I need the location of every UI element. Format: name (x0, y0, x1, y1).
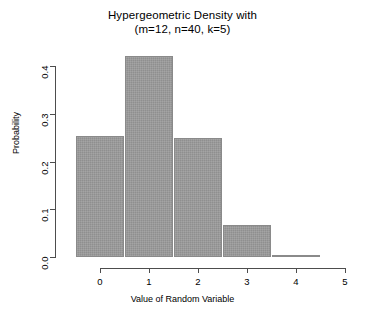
y-axis-title: Probability (11, 103, 21, 163)
x-axis-line (100, 268, 345, 269)
y-axis-tick (50, 257, 55, 258)
x-axis-tick (345, 268, 346, 273)
y-axis-tick-label: 0.4 (39, 66, 50, 110)
y-axis-tick-label: 0.2 (39, 161, 50, 205)
bar (76, 136, 124, 257)
bar (174, 138, 222, 257)
x-axis-tick-label: 3 (232, 276, 262, 287)
bar (272, 255, 320, 257)
hypergeometric-density-chart: Hypergeometric Density with (m=12, n=40,… (0, 0, 365, 319)
x-axis-tick (100, 268, 101, 273)
y-axis-tick-label: 0.1 (39, 209, 50, 253)
x-axis-tick-label: 2 (183, 276, 213, 287)
x-axis-tick-label: 1 (134, 276, 164, 287)
y-axis-tick (50, 162, 55, 163)
x-axis-tick-label: 4 (281, 276, 311, 287)
y-axis-tick-label: 0.0 (39, 257, 50, 301)
chart-title-line1: Hypergeometric Density with (108, 9, 257, 21)
x-axis-tick (296, 268, 297, 273)
x-axis-tick (198, 268, 199, 273)
x-axis-tick-label: 5 (330, 276, 360, 287)
x-axis-tick (247, 268, 248, 273)
y-axis-tick (50, 209, 55, 210)
y-axis-tick (50, 66, 55, 67)
y-axis-tick (50, 114, 55, 115)
x-axis-tick (149, 268, 150, 273)
x-axis-title: Value of Random Variable (0, 294, 365, 304)
chart-title-line2: (m=12, n=40, k=5) (0, 23, 365, 37)
x-axis-tick-label: 0 (85, 276, 115, 287)
chart-title: Hypergeometric Density with (m=12, n=40,… (0, 9, 365, 36)
y-axis-tick-label: 0.3 (39, 113, 50, 157)
y-axis-line (55, 66, 56, 258)
bar (223, 225, 271, 257)
bar (125, 56, 173, 257)
